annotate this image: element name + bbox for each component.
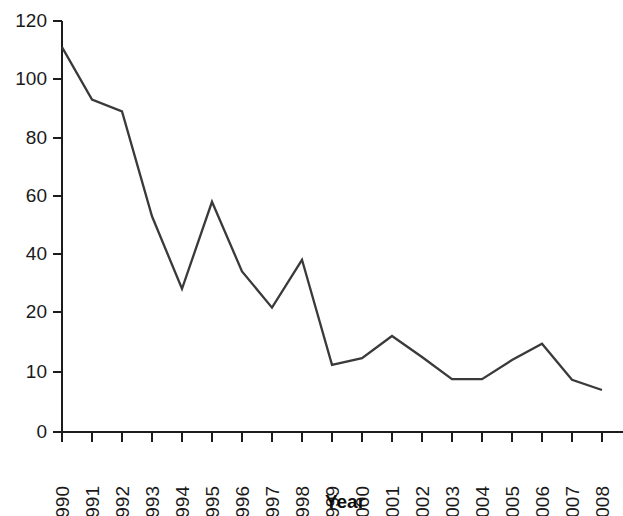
x-tick-label: 1996 — [232, 486, 253, 516]
y-tick-label: 60 — [26, 185, 47, 206]
x-tick-label: 2003 — [442, 486, 463, 516]
x-tick-label: 1995 — [202, 486, 223, 516]
x-axis-title: Year — [325, 491, 366, 512]
y-tick-label: 40 — [26, 243, 47, 264]
x-tick-label: 1998 — [292, 486, 313, 516]
x-tick-label: 2002 — [412, 486, 433, 516]
x-tick-label: 1991 — [82, 486, 103, 516]
y-tick-labels: 01020406080100120 — [15, 10, 47, 442]
x-tick-label: 1992 — [112, 486, 133, 516]
y-tick-label: 20 — [26, 301, 47, 322]
x-tick-label: 2001 — [382, 486, 403, 516]
y-tick-label: 100 — [15, 68, 47, 89]
y-tick-marks — [53, 21, 62, 432]
x-tick-label: 2007 — [562, 486, 583, 516]
data-series-line — [62, 47, 602, 390]
x-tick-label: 1990 — [52, 486, 73, 516]
y-tick-label: 0 — [36, 421, 47, 442]
x-tick-label: 1993 — [142, 486, 163, 516]
line-chart: 01020406080100120 1990199119921993199419… — [0, 0, 623, 516]
y-tick-label: 80 — [26, 127, 47, 148]
x-tick-label: 1997 — [262, 486, 283, 516]
x-tick-label: 2006 — [532, 486, 553, 516]
chart-canvas: 01020406080100120 1990199119921993199419… — [0, 0, 623, 516]
x-tick-label: 1994 — [172, 486, 193, 516]
x-tick-label: 2005 — [502, 486, 523, 516]
y-tick-label: 120 — [15, 10, 47, 31]
y-tick-label: 10 — [26, 361, 47, 382]
y-axis: 01020406080100120 — [15, 10, 62, 442]
x-tick-marks — [62, 432, 602, 442]
x-tick-label: 2008 — [592, 486, 613, 516]
x-tick-label: 2004 — [472, 486, 493, 516]
